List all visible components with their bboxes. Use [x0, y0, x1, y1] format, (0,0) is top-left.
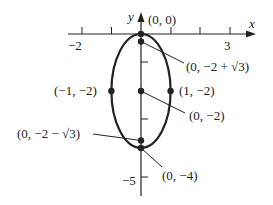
ellipse-diagram: y x −2 3 −5 (0, 0) (0, −2 + √3) (−1, −2)… — [0, 0, 273, 205]
label-left: (−1, −2) — [54, 83, 97, 98]
x-axis-label: x — [248, 16, 255, 31]
point-origin — [138, 31, 144, 37]
label-focus-top: (0, −2 + √3) — [186, 59, 249, 74]
label-bottom: (0, −4) — [162, 168, 198, 183]
x-tick-label-3: 3 — [224, 38, 231, 53]
label-right: (1, −2) — [179, 83, 215, 98]
label-origin: (0, 0) — [148, 12, 176, 27]
label-focus-bottom: (0, −2 − √3) — [17, 126, 80, 141]
x-axis-arrow-icon — [246, 31, 256, 38]
point-right — [167, 88, 173, 94]
y-axis-label: y — [126, 9, 134, 24]
point-left — [108, 88, 114, 94]
y-tick-label-neg5: −5 — [122, 173, 136, 188]
label-center: (0, −2) — [189, 108, 225, 123]
y-ticks — [141, 62, 148, 177]
y-axis-arrow-icon — [138, 12, 145, 22]
x-ticks — [82, 27, 230, 34]
x-tick-label-neg2: −2 — [68, 38, 82, 53]
